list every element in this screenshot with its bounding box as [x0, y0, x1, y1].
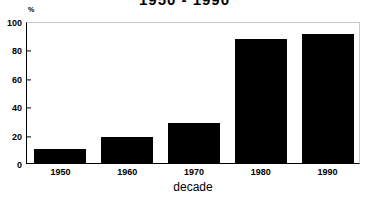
- bar: [101, 137, 153, 163]
- x-tick-label: 1970: [184, 168, 204, 177]
- plot-area: 020406080100 19501960197019801990: [26, 22, 360, 164]
- y-axis-unit-label: %: [28, 6, 34, 13]
- bar-series: [27, 23, 359, 163]
- bar: [168, 123, 220, 163]
- bar: [235, 39, 287, 163]
- x-tick-label: 1950: [50, 168, 70, 177]
- x-axis-title: decade: [26, 181, 360, 193]
- y-tick-label: 100: [7, 19, 22, 28]
- bar: [302, 34, 354, 163]
- x-tick-label: 1990: [318, 168, 338, 177]
- y-tick-label: 0: [17, 161, 22, 170]
- bar-chart-figure: 1950 - 1990 % 020406080100 1950196019701…: [0, 0, 369, 202]
- x-tick-label: 1960: [117, 168, 137, 177]
- chart-title: 1950 - 1990: [0, 0, 369, 8]
- y-tick-label: 60: [12, 75, 22, 84]
- x-tick-label: 1980: [251, 168, 271, 177]
- bar: [34, 149, 86, 163]
- y-tick-label: 80: [12, 47, 22, 56]
- y-tick-label: 20: [12, 132, 22, 141]
- y-tick-label: 40: [12, 104, 22, 113]
